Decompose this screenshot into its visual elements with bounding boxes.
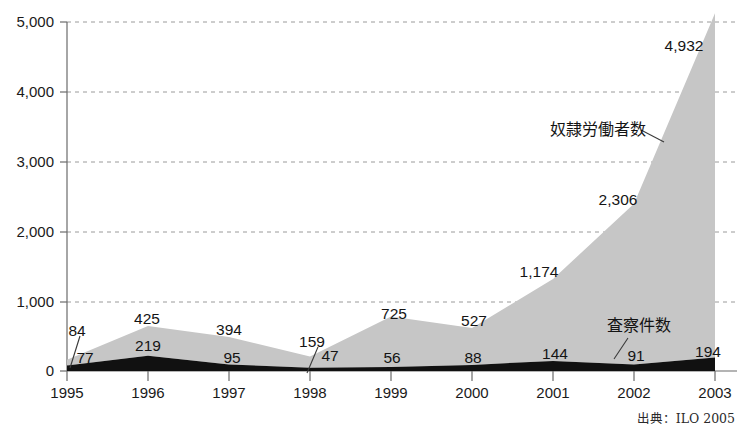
y-tick-marks [60, 22, 67, 371]
y-label-4000: 4,000 [16, 83, 54, 100]
value-label-1997-inspections: 95 [223, 349, 240, 366]
value-label-1996-slave: 425 [134, 310, 160, 327]
value-label-2002-inspections: 91 [627, 347, 644, 364]
x-label-1998: 1998 [293, 384, 326, 401]
y-label-0: 0 [46, 362, 54, 379]
x-label-2003: 2003 [698, 384, 731, 401]
value-label-2003-inspections: 194 [695, 343, 721, 360]
y-label-2000: 2,000 [16, 223, 54, 240]
series-label-slave-laborers: 奴隷労働者数 [550, 120, 646, 139]
y-label-3000: 3,000 [16, 153, 54, 170]
value-label-1995-inspections: 77 [76, 349, 93, 366]
x-label-2002: 2002 [617, 384, 650, 401]
x-tick-labels: 1995 1996 1997 1998 1999 2000 2001 2002 … [50, 384, 731, 401]
y-tick-labels: 5,000 4,000 3,000 2,000 1,000 0 [16, 13, 54, 379]
x-tick-marks [67, 371, 715, 381]
x-label-1997: 1997 [212, 384, 245, 401]
source-attribution: 出典：ILO 2005 [637, 411, 735, 426]
value-label-2000-inspections: 88 [464, 349, 481, 366]
y-label-1000: 1,000 [16, 293, 54, 310]
value-label-2002-slave: 2,306 [599, 191, 638, 208]
chart-container: 5,000 4,000 3,000 2,000 1,000 0 1995 199… [0, 0, 743, 434]
x-label-2001: 2001 [536, 384, 569, 401]
value-label-2001-inspections: 144 [542, 345, 568, 362]
x-label-1999: 1999 [374, 384, 407, 401]
value-label-1999-inspections: 56 [383, 349, 400, 366]
y-label-5000: 5,000 [16, 13, 54, 30]
x-label-1995: 1995 [50, 384, 83, 401]
value-label-2003-slave: 4,932 [665, 37, 704, 54]
value-label-2000-slave: 527 [461, 312, 487, 329]
x-label-1996: 1996 [131, 384, 164, 401]
area-chart: 5,000 4,000 3,000 2,000 1,000 0 1995 199… [0, 0, 743, 434]
value-label-1996-inspections: 219 [135, 337, 161, 354]
value-label-1997-slave: 394 [216, 321, 242, 338]
x-label-2000: 2000 [455, 384, 488, 401]
value-label-1999-slave: 725 [381, 305, 407, 322]
value-label-1998-inspections: 47 [321, 347, 338, 364]
value-label-2001-slave: 1,174 [520, 263, 559, 280]
series-label-inspections: 査察件数 [607, 316, 671, 335]
value-label-1995-slave: 84 [68, 322, 86, 339]
